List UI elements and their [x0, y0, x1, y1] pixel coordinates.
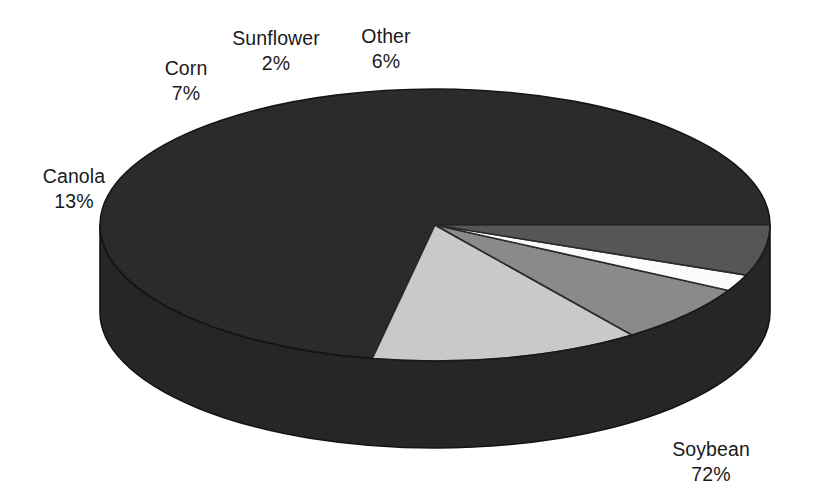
slice-label-sunflower-value: 2%: [214, 51, 338, 76]
slice-label-canola-value: 13%: [18, 189, 130, 214]
slice-label-canola-name: Canola: [18, 164, 130, 189]
pie-top-surface: [100, 89, 770, 361]
slice-label-other-value: 6%: [345, 49, 427, 74]
slice-label-other-name: Other: [345, 24, 427, 49]
slice-label-sunflower: Sunflower 2%: [214, 26, 338, 77]
pie-chart-graphic: [0, 0, 835, 502]
slice-label-other: Other 6%: [345, 24, 427, 75]
slice-label-sunflower-name: Sunflower: [214, 26, 338, 51]
slice-label-soybean-value: 72%: [648, 462, 774, 487]
pie-chart-figure: Canola 13% Corn 7% Sunflower 2% Other 6%…: [0, 0, 835, 502]
slice-label-soybean-name: Soybean: [648, 437, 774, 462]
slice-label-canola: Canola 13%: [18, 164, 130, 215]
slice-label-soybean: Soybean 72%: [648, 437, 774, 488]
slice-label-corn-value: 7%: [140, 81, 232, 106]
